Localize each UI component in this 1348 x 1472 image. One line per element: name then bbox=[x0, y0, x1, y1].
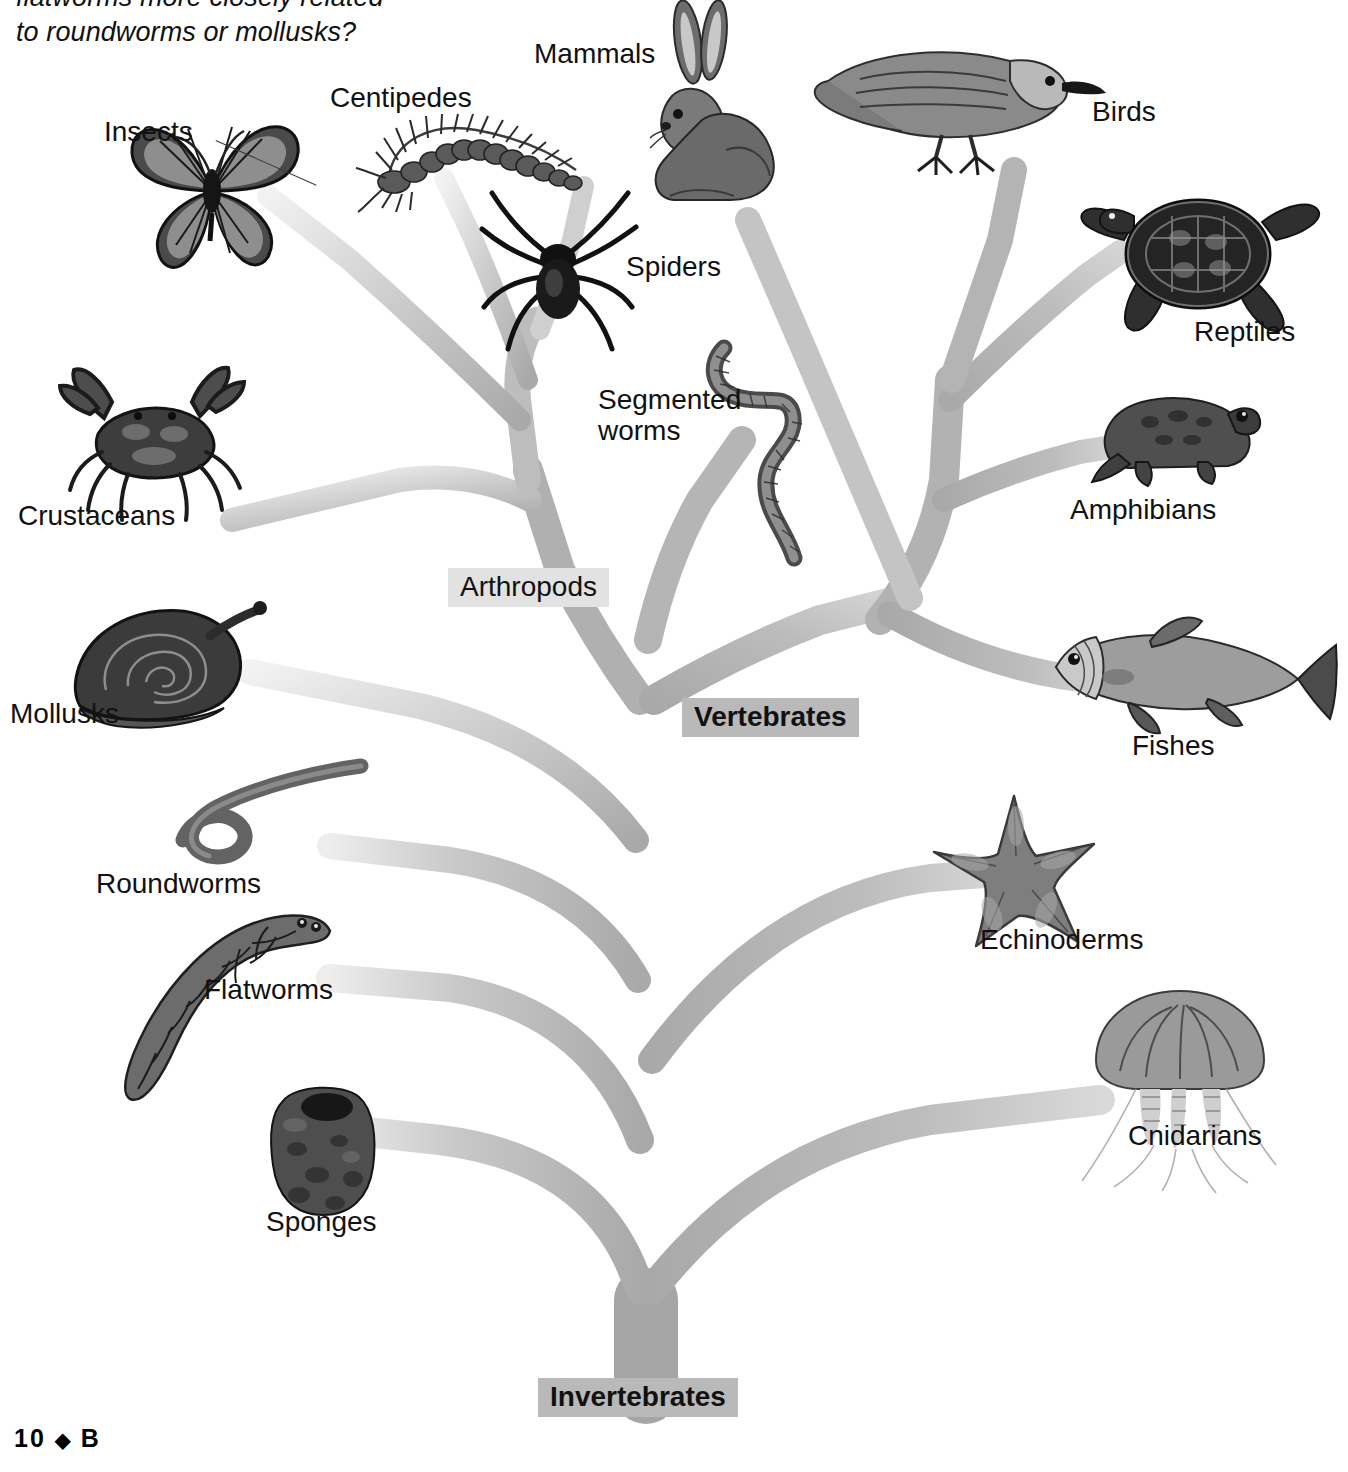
label-birds: Birds bbox=[1092, 96, 1156, 127]
rabbit-icon bbox=[630, 0, 800, 210]
earthworm-icon bbox=[690, 330, 840, 570]
page-footer: 10 ◆ B bbox=[14, 1424, 101, 1453]
label-reptiles: Reptiles bbox=[1194, 316, 1295, 347]
spider-icon bbox=[480, 185, 650, 360]
jellyfish-icon bbox=[1080, 985, 1280, 1195]
turtle-icon bbox=[1080, 178, 1330, 338]
label-sponges: Sponges bbox=[266, 1206, 377, 1237]
label-amphibians: Amphibians bbox=[1070, 494, 1216, 525]
label-segmented-worms: Segmented worms bbox=[598, 384, 778, 447]
label-mollusks: Mollusks bbox=[10, 698, 119, 729]
label-echinoderms: Echinoderms bbox=[980, 924, 1143, 955]
label-segmented-worms-line-2: worms bbox=[598, 415, 680, 446]
label-insects: Insects bbox=[104, 116, 193, 147]
label-centipedes: Centipedes bbox=[330, 82, 472, 113]
group-label-invertebrates: Invertebrates bbox=[538, 1378, 738, 1417]
book-letter: B bbox=[81, 1424, 101, 1452]
diamond-icon: ◆ bbox=[55, 1429, 72, 1451]
label-crustaceans: Crustaceans bbox=[18, 500, 175, 531]
group-label-vertebrates: Vertebrates bbox=[682, 698, 859, 737]
label-fishes: Fishes bbox=[1132, 730, 1214, 761]
label-mammals: Mammals bbox=[534, 38, 655, 69]
group-label-arthropods: Arthropods bbox=[448, 568, 609, 607]
label-cnidarians: Cnidarians bbox=[1128, 1120, 1262, 1151]
roundworm-icon bbox=[165, 760, 365, 880]
label-spiders: Spiders bbox=[626, 251, 721, 282]
textbook-page: flatworms more closely related to roundw… bbox=[0, 0, 1348, 1472]
label-roundworms: Roundworms bbox=[96, 868, 261, 899]
sponge-icon bbox=[255, 1075, 395, 1220]
bird-icon bbox=[810, 35, 1110, 180]
label-flatworms: Flatworms bbox=[204, 974, 333, 1005]
frog-icon bbox=[1078, 370, 1268, 490]
fish-icon bbox=[1030, 605, 1340, 745]
label-segmented-worms-line-1: Segmented bbox=[598, 384, 741, 415]
page-number: 10 bbox=[14, 1424, 46, 1452]
